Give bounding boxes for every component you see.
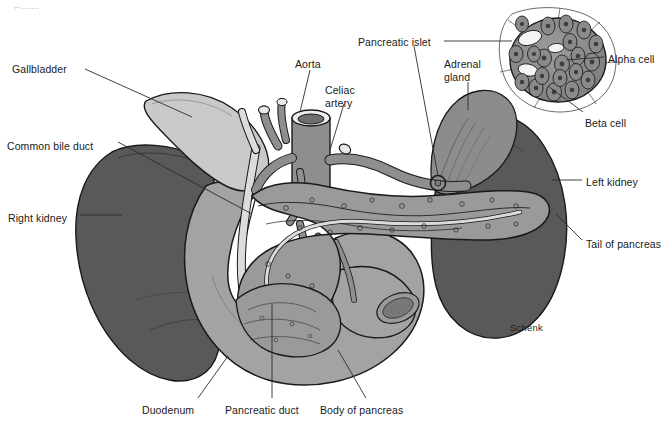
label-aorta: Aorta xyxy=(295,58,321,71)
leader-pancreatic-islet-2 xyxy=(414,46,438,176)
label-beta-cell: Beta cell xyxy=(585,117,626,130)
label-duodenum: Duodenum xyxy=(142,404,194,417)
label-alpha-cell: Alpha cell xyxy=(608,53,655,66)
label-pancreatic-islet: Pancreatic islet xyxy=(358,36,431,49)
anatomy-illustration xyxy=(0,0,669,424)
anatomy-figure: Figure xyxy=(0,0,669,424)
label-common-bile-duct: Common bile duct xyxy=(7,140,93,153)
leader-aorta xyxy=(300,70,310,112)
label-body-of-pancreas: Body of pancreas xyxy=(320,404,403,417)
label-pancreatic-duct: Pancreatic duct xyxy=(225,404,299,417)
label-tail-of-pancreas: Tail of pancreas xyxy=(586,238,661,251)
label-adrenal-gland: Adrenal gland xyxy=(444,58,481,83)
artist-credit: Schenk xyxy=(510,322,543,333)
label-celiac-artery: Celiac artery xyxy=(325,84,355,109)
islet-inset-illustration xyxy=(499,8,618,112)
label-left-kidney: Left kidney xyxy=(586,176,638,189)
label-gallbladder: Gallbladder xyxy=(12,63,67,76)
label-right-kidney: Right kidney xyxy=(8,212,67,225)
leader-celiac-artery xyxy=(330,104,344,150)
